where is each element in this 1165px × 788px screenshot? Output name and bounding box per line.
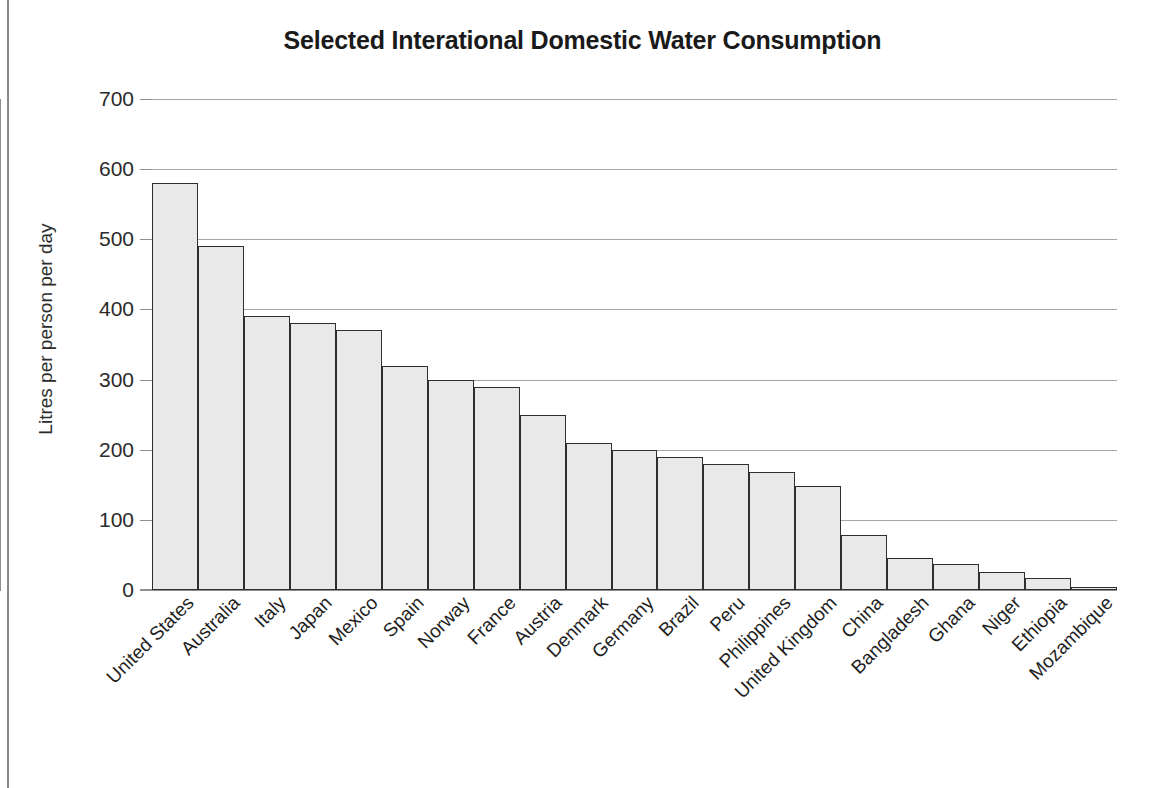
y-tick-mark — [140, 169, 152, 170]
bar — [290, 323, 336, 590]
y-tick-label: 400 — [14, 297, 134, 321]
y-tick-mark — [140, 380, 152, 381]
y-tick-label: 300 — [14, 368, 134, 392]
bar — [382, 366, 428, 590]
bar — [474, 387, 520, 590]
x-tick-label: Brazil — [655, 592, 704, 641]
bar — [612, 450, 658, 590]
bar-series — [152, 99, 1117, 590]
bar — [566, 443, 612, 590]
bar — [749, 472, 795, 590]
bar — [887, 558, 933, 590]
bar — [703, 464, 749, 590]
y-tick-label: 700 — [14, 87, 134, 111]
bar — [244, 316, 290, 590]
x-tick-label: Mexico — [324, 592, 382, 650]
bar — [428, 380, 474, 590]
y-tick-label: 0 — [14, 578, 134, 602]
x-axis-tick-labels: United StatesAustraliaItalyJapanMexicoSp… — [152, 592, 1152, 782]
bar — [795, 486, 841, 590]
bar — [198, 246, 244, 590]
y-tick-mark — [140, 520, 152, 521]
y-tick-label: 600 — [14, 157, 134, 181]
y-tick-mark — [140, 309, 152, 310]
bar — [520, 415, 566, 590]
bar — [657, 457, 703, 590]
x-tick-label: Ghana — [924, 592, 980, 648]
bar — [336, 330, 382, 590]
bar — [979, 572, 1025, 590]
x-tick-label: France — [463, 592, 520, 649]
y-tick-label: 500 — [14, 227, 134, 251]
x-tick-label: Italy — [250, 592, 290, 632]
bar — [152, 183, 198, 590]
y-tick-mark — [140, 239, 152, 240]
bar — [1071, 587, 1117, 591]
chart-title: Selected Interational Domestic Water Con… — [0, 26, 1165, 55]
y-tick-label: 200 — [14, 438, 134, 462]
bar — [1025, 578, 1071, 590]
bar — [841, 535, 887, 590]
y-tick-mark — [140, 99, 152, 100]
y-tick-label: 100 — [14, 508, 134, 532]
bar-chart-figure: Selected Interational Domestic Water Con… — [0, 0, 1165, 788]
y-tick-mark — [140, 450, 152, 451]
y-tick-mark — [140, 590, 152, 591]
bar — [933, 564, 979, 590]
